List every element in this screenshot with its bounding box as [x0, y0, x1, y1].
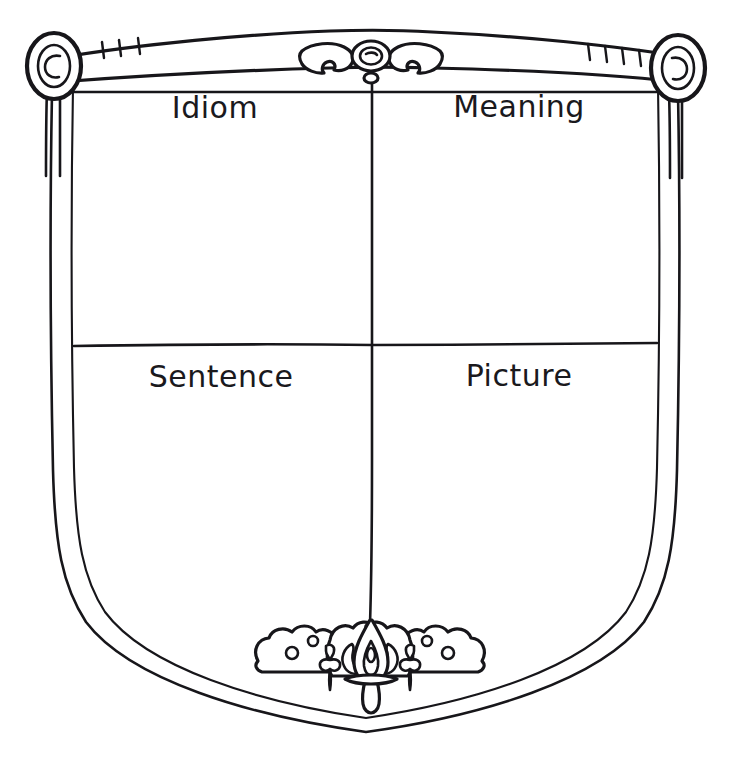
worksheet-canvas: Idiom Meaning Sentence Picture: [0, 0, 730, 764]
quadrant-label-sentence: Sentence: [149, 359, 294, 394]
winged-medallion-ornament-icon: [300, 41, 443, 83]
shield-illustration: [0, 0, 730, 764]
quadrant-label-idiom: Idiom: [172, 90, 258, 125]
quadrant-label-meaning: Meaning: [453, 89, 585, 124]
quadrant-label-picture: Picture: [466, 358, 573, 393]
